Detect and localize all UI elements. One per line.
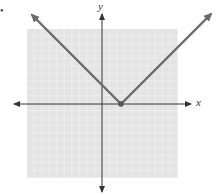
x-axis-label: x: [196, 96, 201, 108]
absolute-value-graph: [0, 0, 217, 195]
vertex-point: [118, 101, 124, 107]
y-axis-label: y: [98, 0, 103, 12]
